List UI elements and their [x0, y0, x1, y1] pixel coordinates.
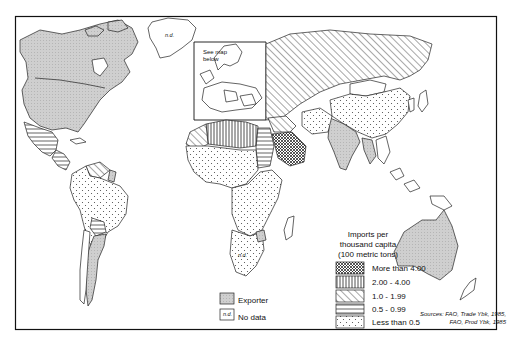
legend-label-exporter: Exporter: [238, 296, 268, 305]
nd-marker-africa: n.d.: [238, 252, 247, 258]
world-map: [0, 0, 513, 346]
legend-swatch-exporter: [220, 293, 234, 304]
legend-label-more-than-4: More than 4.00: [372, 264, 426, 273]
inset-label-line-2: below: [203, 56, 227, 63]
legend-title-line-3: (100 metric tons): [336, 250, 400, 260]
sources-line-1: Sources: FAO, Trade Ybk, 1985,: [420, 310, 506, 318]
legend-title-line-2: thousand capita: [336, 240, 400, 250]
legend-label-1-to-2: 1.0 - 1.99: [372, 292, 406, 301]
legend-label-05-to-1: 0.5 - 0.99: [372, 305, 406, 314]
legend-label-no-data: No data: [238, 313, 266, 322]
inset-label-line-1: See map: [203, 49, 227, 56]
legend-no-data-swatch-text: n.d.: [223, 311, 232, 317]
legend-swatch-horizontal: [336, 304, 364, 314]
legend-label-less-05: Less than 0.5: [372, 318, 420, 327]
legend-swatch-vertical: [336, 276, 364, 288]
legend-swatch-diagonal: [336, 290, 364, 302]
sources-line-2: FAO, Prod Ybk, 1985: [420, 318, 506, 326]
legend-swatch-dots: [336, 316, 364, 328]
legend-label-2-to-4: 2.00 - 4.00: [372, 278, 410, 287]
legend-title: Imports per thousand capita (100 metric …: [336, 230, 400, 260]
sources-note: Sources: FAO, Trade Ybk, 1985, FAO, Prod…: [420, 310, 506, 326]
nd-marker-greenland: n.d.: [165, 32, 174, 38]
legend-swatch-crosshatch: [336, 262, 364, 274]
legend-title-line-1: Imports per: [336, 230, 400, 240]
north-africa-vertical: [206, 120, 258, 148]
inset-label: See map below: [203, 49, 227, 63]
